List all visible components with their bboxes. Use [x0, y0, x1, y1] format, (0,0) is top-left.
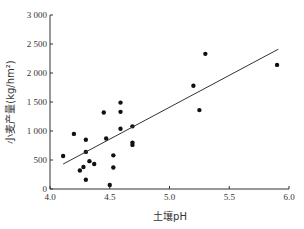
data-point — [78, 168, 82, 172]
y-tick-label: 500 — [34, 155, 48, 165]
data-point — [130, 143, 134, 147]
data-point — [108, 183, 112, 187]
data-point — [197, 108, 201, 112]
y-axis-label: 小麦产量(kg/hm²) — [4, 60, 16, 143]
data-point — [118, 126, 122, 130]
data-point — [72, 132, 76, 136]
x-tick-label: 6.0 — [283, 192, 295, 202]
x-tick-label: 4.0 — [44, 192, 56, 202]
x-tick-label: 5.5 — [224, 192, 236, 202]
data-point — [102, 110, 106, 114]
y-tick-label: 2 500 — [27, 39, 48, 49]
y-tick-label: 3 000 — [27, 10, 48, 20]
data-points — [61, 52, 279, 187]
y-tick-label: 1 500 — [27, 97, 48, 107]
data-point — [118, 110, 122, 114]
x-tick-label: 5.0 — [164, 192, 176, 202]
data-point — [61, 154, 65, 158]
scatter-chart: 05001 0001 5002 0002 5003 000 4.04.55.05… — [0, 0, 304, 229]
data-point — [275, 63, 279, 67]
x-axis-label: 土壤pH — [153, 210, 187, 222]
y-axis-ticks: 05001 0001 5002 0002 5003 000 — [27, 10, 53, 194]
data-point — [81, 165, 85, 169]
data-point — [84, 138, 88, 142]
y-tick-label: 2 000 — [27, 68, 48, 78]
x-axis-ticks: 4.04.55.05.56.0 — [44, 186, 295, 202]
x-tick-label: 4.5 — [104, 192, 116, 202]
data-point — [118, 100, 122, 104]
axes — [50, 15, 289, 189]
data-point — [111, 165, 115, 169]
data-point — [92, 162, 96, 166]
data-point — [203, 52, 207, 56]
data-point — [87, 159, 91, 163]
y-tick-label: 1 000 — [27, 126, 48, 136]
data-point — [111, 153, 115, 157]
trend-line — [63, 49, 278, 164]
data-point — [84, 178, 88, 182]
data-point — [191, 84, 195, 88]
